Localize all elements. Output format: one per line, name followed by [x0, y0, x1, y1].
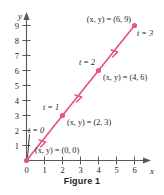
x-tick-label-0: 0 — [24, 165, 28, 175]
t-label-t0: t = 0 — [28, 126, 44, 135]
x-tick-label-1: 1 — [42, 165, 46, 175]
x-axis-label: x — [149, 166, 154, 176]
y-axis-label: y — [17, 11, 22, 21]
y-tick-label-1: 1 — [15, 141, 19, 151]
x-tick-label-3: 3 — [78, 165, 82, 175]
y-tick-label-5: 5 — [15, 81, 19, 91]
x-tick-label-5: 5 — [114, 165, 118, 175]
figure-caption: Figure 1 — [0, 176, 164, 186]
y-tick-label-7: 7 — [15, 51, 19, 61]
y-tick-labels: 1 2 3 4 5 6 7 8 9 — [15, 21, 20, 151]
point-label-t1: (x, y) = (2, 3) — [67, 118, 111, 127]
x-tick-label-4: 4 — [96, 165, 101, 175]
t-label-t1: t = 1 — [43, 103, 59, 112]
parametric-line — [27, 26, 135, 161]
x-axis — [27, 157, 152, 163]
data-point-t2 — [96, 68, 101, 73]
parametric-line-chart: 1 2 3 4 5 6 7 8 9 0 1 2 3 4 5 6 y x — [0, 0, 164, 195]
y-tick-label-8: 8 — [15, 36, 19, 46]
data-point-t3 — [132, 23, 137, 28]
t-label-t2: t = 2 — [79, 58, 95, 67]
x-tick-labels: 0 1 2 3 4 5 6 — [24, 165, 136, 175]
t-label-t3: t = 3 — [137, 29, 153, 38]
point-label-t0: (x, y) = (0, 0) — [35, 146, 79, 155]
point-label-t2: (x, y) = (4, 6) — [103, 73, 147, 82]
point-label-t3: (x, y) = (6, 9) — [87, 15, 131, 24]
y-tick-label-3: 3 — [15, 111, 19, 121]
y-tick-label-2: 2 — [15, 126, 19, 136]
y-tick-label-9: 9 — [15, 21, 19, 31]
figure-container: 1 2 3 4 5 6 7 8 9 0 1 2 3 4 5 6 y x — [0, 0, 164, 195]
x-tick-label-6: 6 — [132, 165, 136, 175]
y-tick-label-4: 4 — [15, 96, 20, 106]
data-point-t1 — [60, 113, 65, 118]
y-tick-label-6: 6 — [15, 66, 19, 76]
x-tick-label-2: 2 — [60, 165, 64, 175]
data-point-t0 — [24, 158, 29, 163]
y-axis — [23, 12, 29, 161]
